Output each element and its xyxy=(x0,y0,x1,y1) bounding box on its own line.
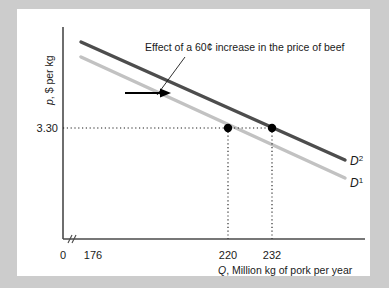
data-point-marker-220 xyxy=(224,124,232,132)
curve-label-d2: D2 xyxy=(350,154,364,169)
y-tick-label-330: 3.30 xyxy=(37,122,58,134)
x-tick-label-232: 232 xyxy=(263,249,281,261)
x-tick-label-220: 220 xyxy=(219,249,237,261)
demand-curve-d1 xyxy=(81,57,345,178)
annotation-text: Effect of a 60¢ increase in the price of… xyxy=(145,41,345,53)
demand-curve-d2 xyxy=(81,42,345,160)
figure-root: Effect of a 60¢ increase in the price of… xyxy=(0,0,389,288)
x-tick-label-176: 176 xyxy=(84,249,102,261)
y-axis-title: p, $ per kg xyxy=(43,55,55,106)
data-point-marker-232 xyxy=(268,124,276,132)
x-tick-label-0: 0 xyxy=(60,249,66,261)
curve-label-d1: D1 xyxy=(350,176,364,191)
demand-shift-chart: Effect of a 60¢ increase in the price of… xyxy=(17,9,370,276)
figure-card: Effect of a 60¢ increase in the price of… xyxy=(17,9,370,276)
x-axis-title: Q, Million kg of pork per year xyxy=(218,264,353,276)
